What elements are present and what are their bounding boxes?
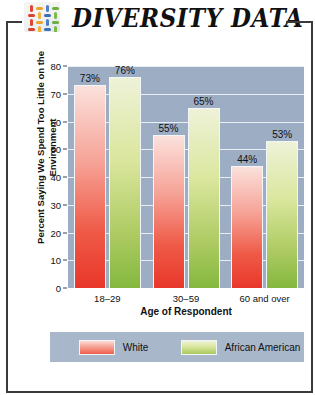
- x-tick-label: 30–59: [173, 293, 199, 304]
- chart-legend: WhiteAfrican American: [50, 332, 304, 362]
- logo-dash: [54, 26, 57, 32]
- logo-dash: [36, 21, 43, 24]
- y-tick-mark: [63, 93, 67, 94]
- bar-value-label: 44%: [237, 154, 257, 165]
- y-tick-label: 60: [50, 116, 61, 127]
- bar-value-label: 76%: [115, 65, 135, 76]
- y-tick-mark: [63, 288, 67, 289]
- logo-dash: [44, 28, 51, 31]
- x-tick-label: 60 and over: [240, 293, 290, 304]
- logo-dash: [28, 28, 35, 31]
- y-tick-mark: [63, 149, 67, 150]
- gridline: [68, 66, 304, 67]
- logo-dash: [44, 14, 51, 17]
- logo-dash: [46, 19, 49, 26]
- frame-border-right: [311, 21, 313, 393]
- header-rule-left: [6, 21, 22, 23]
- colored-dashes-grid-icon: [24, 2, 60, 32]
- logo-dash: [36, 7, 43, 10]
- logo-dash: [46, 5, 49, 12]
- y-tick-label: 70: [50, 88, 61, 99]
- bar-white-0: 73%: [74, 85, 106, 288]
- logo-dash: [30, 5, 33, 12]
- bar-value-label: 53%: [272, 129, 292, 140]
- chart-header: DIVERSITY DATA: [0, 0, 315, 40]
- legend-item-african-american: African American: [177, 340, 304, 355]
- y-tick-label: 20: [50, 227, 61, 238]
- legend-item-white: White: [50, 340, 177, 355]
- y-tick-label: 30: [50, 199, 61, 210]
- y-tick-label: 80: [50, 61, 61, 72]
- header-rule-right: [286, 21, 313, 23]
- y-tick-mark: [63, 232, 67, 233]
- legend-label: White: [123, 342, 149, 353]
- y-tick-label: 50: [50, 144, 61, 155]
- y-tick-mark: [63, 66, 67, 67]
- y-tick-mark: [63, 260, 67, 261]
- bar-chart: Percent Saying We Spend Too Little on th…: [12, 44, 308, 388]
- y-tick-label: 0: [56, 283, 61, 294]
- legend-swatch: [79, 340, 115, 355]
- logo-dash: [38, 12, 41, 19]
- frame-border-bottom: [6, 391, 313, 393]
- y-tick-mark: [63, 177, 67, 178]
- y-tick-mark: [63, 204, 67, 205]
- logo-dash: [52, 21, 59, 24]
- bar-value-label: 65%: [193, 96, 213, 107]
- bar-african-american-0: 76%: [109, 77, 141, 288]
- logo-dash: [52, 7, 59, 10]
- x-tick-label: 18–29: [94, 293, 120, 304]
- bar-white-2: 44%: [231, 166, 263, 288]
- logo-dash: [38, 26, 41, 32]
- y-tick-mark: [63, 121, 67, 122]
- page-title: DIVERSITY DATA: [72, 1, 282, 35]
- legend-swatch: [181, 340, 217, 355]
- frame-border-left: [6, 21, 8, 393]
- logo-dash: [30, 19, 33, 26]
- y-tick-label: 40: [50, 172, 61, 183]
- bar-white-1: 55%: [153, 135, 185, 288]
- logo-dash: [28, 14, 35, 17]
- bar-value-label: 73%: [80, 73, 100, 84]
- legend-label: African American: [225, 342, 301, 353]
- x-axis-title: Age of Respondent: [68, 306, 304, 317]
- y-tick-label: 10: [50, 255, 61, 266]
- bar-african-american-1: 65%: [188, 108, 220, 288]
- bar-african-american-2: 53%: [266, 141, 298, 288]
- bar-value-label: 55%: [158, 123, 178, 134]
- logo-dash: [54, 12, 57, 19]
- plot-area: 0102030405060708073%76%18–2955%65%30–594…: [68, 66, 304, 288]
